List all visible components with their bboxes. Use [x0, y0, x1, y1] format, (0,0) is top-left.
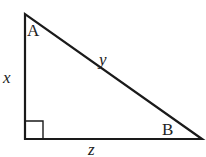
side-label-y: y [97, 50, 107, 69]
vertex-label-a: A [27, 21, 40, 40]
triangle-outline [25, 14, 202, 139]
vertex-label-b: B [162, 120, 173, 139]
side-label-x: x [2, 68, 11, 87]
side-label-z: z [87, 140, 95, 157]
right-angle-marker [25, 121, 43, 139]
right-triangle-diagram: A B x y z [0, 0, 206, 157]
